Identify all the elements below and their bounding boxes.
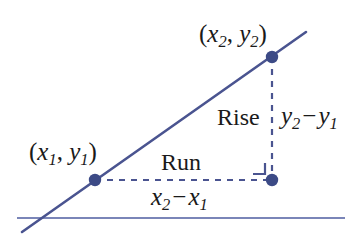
comma-separator: ,: [57, 138, 70, 165]
paren-close: ): [259, 20, 267, 47]
x1-subscript: 1: [200, 195, 208, 214]
y-subscript: 2: [250, 32, 258, 51]
x-variable: x: [37, 138, 48, 165]
delta-x-label: x2−x1: [151, 184, 208, 213]
paren-close: ): [89, 138, 97, 165]
comma-separator: ,: [227, 20, 240, 47]
x2-variable: x: [151, 183, 162, 210]
y-subscript: 1: [80, 150, 88, 169]
rise-label: Rise: [217, 105, 260, 129]
run-label: Run: [161, 150, 201, 174]
y2-variable: y: [281, 102, 292, 129]
x1-variable: x: [188, 183, 199, 210]
minus-operator: −: [170, 183, 188, 210]
y-variable: y: [69, 138, 80, 165]
x-subscript: 2: [218, 32, 226, 51]
y1-variable: y: [318, 102, 329, 129]
point-x1y1-label: (x1, y1): [29, 139, 97, 168]
minus-operator: −: [300, 102, 318, 129]
point-x2y2-label: (x2, y2): [199, 21, 267, 50]
delta-y-label: y2−y1: [281, 103, 338, 132]
y-variable: y: [239, 20, 250, 47]
x-variable: x: [207, 20, 218, 47]
slope-diagram: (x2, y2) (x1, y1) Rise y2−y1 Run x2−x1: [0, 0, 361, 234]
y1-subscript: 1: [330, 114, 338, 133]
point-corner-marker: [266, 174, 278, 186]
x-subscript: 1: [48, 150, 56, 169]
point-x2y2-marker: [266, 51, 278, 63]
right-angle-marker: [253, 163, 265, 174]
point-x1y1-marker: [89, 174, 101, 186]
